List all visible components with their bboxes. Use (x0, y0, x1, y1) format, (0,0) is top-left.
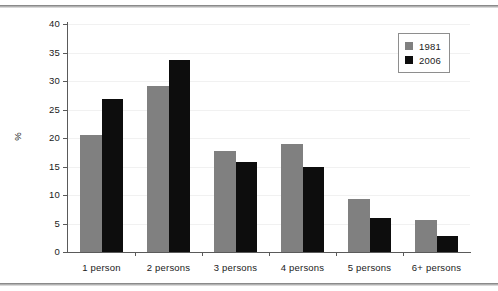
x-tick-label: 2 persons (135, 262, 202, 273)
legend-swatch-icon (405, 56, 413, 64)
bottom-divider-rule (0, 283, 498, 286)
bar (303, 167, 325, 253)
legend-item: 1981 (405, 39, 441, 53)
x-tick-mark (202, 252, 203, 256)
y-tick-label: 40 (34, 18, 60, 29)
x-tick-mark (269, 252, 270, 256)
y-tick-label: 20 (34, 132, 60, 143)
y-tick-label: 15 (34, 161, 60, 172)
bar (348, 199, 370, 252)
gridline (68, 167, 470, 168)
gridline (68, 138, 470, 139)
x-tick-label: 1 person (68, 262, 135, 273)
gridline (68, 24, 470, 25)
y-tick-label: 35 (34, 47, 60, 58)
y-tick-label: 25 (34, 104, 60, 115)
y-tick-label: 30 (34, 75, 60, 86)
x-tick-label: 4 persons (269, 262, 336, 273)
bar (169, 60, 191, 252)
chart-legend: 19812006 (398, 33, 450, 73)
x-tick-label: 3 persons (202, 262, 269, 273)
y-tick-label: 5 (34, 218, 60, 229)
legend-swatch-icon (405, 42, 413, 50)
gridline (68, 224, 470, 225)
top-divider-rule (0, 5, 498, 8)
bar (281, 144, 303, 252)
bar (236, 162, 258, 252)
legend-item: 2006 (405, 53, 441, 67)
bar (415, 220, 437, 252)
gridline (68, 195, 470, 196)
x-tick-mark (135, 252, 136, 256)
gridline (68, 81, 470, 82)
y-tick-label: 0 (34, 246, 60, 257)
legend-label: 1981 (419, 41, 441, 52)
bar (437, 236, 459, 252)
y-tick-label: 10 (34, 189, 60, 200)
gridline (68, 110, 470, 111)
x-tick-label: 5 persons (336, 262, 403, 273)
legend-label: 2006 (419, 55, 441, 66)
x-tick-label: 6+ persons (403, 262, 470, 273)
bar (214, 151, 236, 252)
bar (147, 86, 169, 252)
bar (102, 99, 124, 252)
y-axis-tick-labels: 0510152025303540 (0, 0, 60, 291)
x-tick-mark (403, 252, 404, 256)
chart-figure: % 0510152025303540 1 person2 persons3 pe… (0, 0, 498, 291)
x-tick-mark (336, 252, 337, 256)
bar (80, 135, 102, 252)
bar (370, 218, 392, 252)
